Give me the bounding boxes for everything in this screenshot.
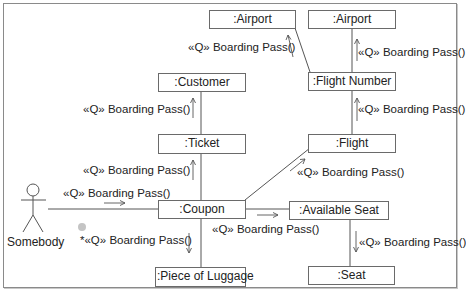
object-piece-of-luggage[interactable]: :Piece of Luggage bbox=[155, 267, 246, 287]
message-flightnumber-to-airport-left: «Q» Boarding Pass() bbox=[188, 40, 295, 54]
message-flightnumber-to-airport-right: «Q» Boarding Pass() bbox=[358, 45, 465, 59]
message-coupon-to-flight: «Q» Boarding Pass() bbox=[297, 165, 404, 179]
object-customer[interactable]: :Customer bbox=[158, 73, 246, 92]
message-flight-to-flightnumber: «Q» Boarding Pass() bbox=[358, 102, 465, 116]
object-airport-left[interactable]: :Airport bbox=[209, 10, 296, 29]
message-coupon-to-ticket: «Q» Boarding Pass() bbox=[83, 163, 190, 177]
object-available-seat[interactable]: :Available Seat bbox=[289, 201, 389, 220]
marker-dot bbox=[78, 223, 86, 231]
message-ticket-to-customer: «Q» Boarding Pass() bbox=[83, 102, 190, 116]
message-somebody-to-coupon: «Q» Boarding Pass() bbox=[63, 186, 170, 200]
object-coupon[interactable]: :Coupon bbox=[158, 200, 246, 219]
object-airport-right[interactable]: :Airport bbox=[308, 10, 396, 29]
object-flight[interactable]: :Flight bbox=[308, 134, 396, 153]
object-flight-number[interactable]: :Flight Number bbox=[308, 72, 396, 91]
object-seat[interactable]: :Seat bbox=[308, 266, 395, 285]
message-coupon-to-available-seat: «Q» Boarding Pass() bbox=[212, 222, 319, 236]
object-ticket[interactable]: :Ticket bbox=[158, 134, 246, 154]
message-coupon-to-luggage: *«Q» Boarding Pass() bbox=[80, 233, 192, 247]
message-availableseat-to-seat: «Q» Boarding Pass() bbox=[359, 235, 466, 249]
stick-figure-icon bbox=[21, 184, 46, 232]
actor-somebody-label: Somebody bbox=[7, 235, 64, 249]
